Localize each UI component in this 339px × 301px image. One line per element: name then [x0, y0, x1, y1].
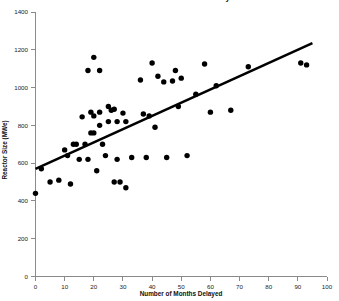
data-point: [129, 155, 134, 160]
data-point: [202, 61, 207, 66]
y-tick-label: 200: [18, 235, 29, 242]
data-point: [79, 114, 84, 119]
data-point: [97, 109, 102, 114]
data-point: [304, 62, 309, 67]
x-tick-label: 90: [294, 283, 301, 290]
x-tick-label: 30: [120, 283, 127, 290]
data-point: [170, 78, 175, 83]
data-point: [94, 168, 99, 173]
y-tick-label: 400: [18, 197, 29, 204]
data-point: [68, 181, 73, 186]
data-point: [56, 177, 61, 182]
data-point: [228, 108, 233, 113]
data-point: [85, 68, 90, 73]
y-tick-label: 0: [25, 273, 29, 280]
x-tick-label: 60: [207, 283, 214, 290]
y-tick-label: 1200: [14, 46, 28, 53]
data-point: [298, 60, 303, 65]
data-point: [123, 119, 128, 124]
data-point: [33, 191, 38, 196]
data-point: [74, 142, 79, 147]
data-point: [112, 179, 117, 184]
data-point: [97, 123, 102, 128]
data-point: [246, 64, 251, 69]
data-point: [138, 77, 143, 82]
data-point: [85, 157, 90, 162]
data-point: [184, 153, 189, 158]
data-point: [164, 155, 169, 160]
data-point: [208, 109, 213, 114]
data-point: [161, 79, 166, 84]
data-point: [106, 119, 111, 124]
data-point: [141, 111, 146, 116]
data-point: [123, 185, 128, 190]
data-point: [100, 142, 105, 147]
data-point: [173, 68, 178, 73]
data-point: [152, 125, 157, 130]
x-tick-label: 80: [265, 283, 272, 290]
x-axis-label: Number of Months Delayed: [140, 290, 223, 298]
data-point: [91, 55, 96, 60]
y-tick-label: 600: [18, 159, 29, 166]
x-tick-label: 0: [34, 283, 38, 290]
data-point: [112, 107, 117, 112]
data-point: [179, 75, 184, 80]
data-point: [144, 155, 149, 160]
data-point: [149, 60, 154, 65]
data-point: [91, 130, 96, 135]
x-tick-label: 20: [90, 283, 97, 290]
scatter-plot: 0200400600800100012001400 01020304050607…: [0, 0, 339, 301]
data-point: [77, 157, 82, 162]
data-point: [117, 179, 122, 184]
x-tick-label: 70: [236, 283, 243, 290]
trend-line: [36, 43, 313, 169]
data-point: [97, 68, 102, 73]
x-tick-label: 50: [178, 283, 185, 290]
data-points: [33, 55, 309, 196]
x-tick-label: 10: [61, 283, 68, 290]
x-axis-ticks: 0102030405060708090100: [34, 277, 333, 291]
data-point: [103, 153, 108, 158]
y-axis-ticks: 0200400600800100012001400: [14, 8, 35, 280]
data-point: [120, 110, 125, 115]
data-point: [114, 119, 119, 124]
axes: [36, 12, 328, 277]
x-tick-label: 100: [322, 283, 333, 290]
data-point: [91, 113, 96, 118]
y-tick-label: 800: [18, 122, 29, 129]
data-point: [47, 179, 52, 184]
y-axis-label: Reactor Size (MWe): [1, 120, 9, 179]
x-tick-label: 40: [149, 283, 156, 290]
data-point: [114, 157, 119, 162]
y-tick-label: 1400: [14, 8, 28, 15]
y-tick-label: 1000: [14, 84, 28, 91]
chart-figure: Reactor Size versus Months Delayed 02004…: [0, 0, 339, 301]
data-point: [62, 147, 67, 152]
data-point: [155, 74, 160, 79]
